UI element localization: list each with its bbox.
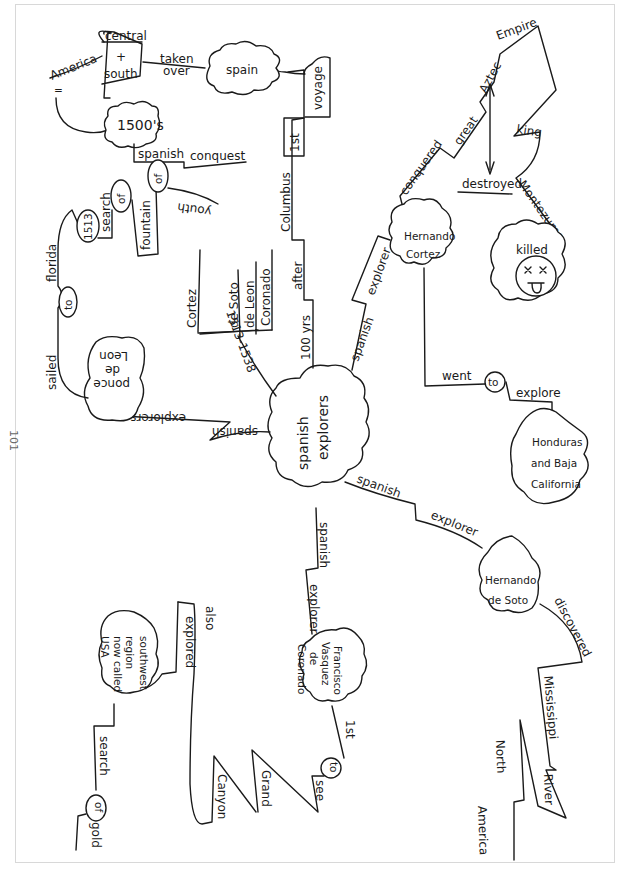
label-explore: explore [516,386,561,400]
label-cortez: Cortez [185,289,199,328]
branch-coronado: spanish explorer Francisco Vasquez de Co… [76,508,367,850]
label-spanish-5: spanish [317,522,331,568]
node-region-line2: region [124,636,136,669]
label-north-america: America [475,806,491,856]
node-ponce-line2: de [105,363,120,377]
label-great: great [451,113,481,147]
node-spain: spain [226,63,258,77]
label-mississippi: Mississippi [541,675,561,740]
label-equals: = [54,84,63,96]
dead-face-icon [516,256,556,296]
node-coronado-line2: Vasquez [320,642,332,686]
node-desoto-line1: Hernando [485,574,536,586]
branch-timeline: 1513-1538 Cortez de Soto de Leon Coronad… [185,250,276,396]
node-region-line4: USA [99,636,111,659]
label-canyon: Canyon [215,774,229,819]
central-node: spanish explorers [268,365,369,486]
node-region-line1: southwest [138,636,150,690]
label-spanish-2: spanish [212,425,258,439]
branch-de-soto: spanish explorer Hernando de Soto discov… [345,472,594,860]
label-of-3: of [93,802,105,812]
label-conquest: conquest [190,149,245,163]
worksheet-page: 101 spanish explorers 100 yrs after Colu… [0,0,625,884]
node-honduras-line2: and Baja [531,457,577,469]
label-explorer-1: explorer [364,246,394,297]
label-spanish-3: spanish [348,315,377,363]
label-columbus: Columbus [279,172,293,232]
node-coronado-line1: Francisco [332,646,344,695]
label-1513: 1513 [82,213,94,240]
label-central: central [105,29,147,43]
label-killed: killed [516,243,548,257]
label-plus: + [116,50,126,64]
label-also: also [203,606,217,630]
label-discovered: discovered [551,595,594,659]
label-to-3: to [328,762,340,773]
label-to-2: to [488,376,499,388]
label-spanish-4: spanish [355,472,403,501]
label-empire: Empire [494,15,539,43]
mind-map: 101 spanish explorers 100 yrs after Colu… [0,0,625,884]
label-explorer-3: explorer [307,584,321,634]
label-explored: explored [183,616,197,668]
branch-cortez: spanish explorer Hernando Cortez conquer… [348,15,589,503]
label-destroyed: destroyed [462,177,522,191]
label-de-leon: de Leon [243,280,257,328]
label-100-yrs: 100 yrs [299,315,313,360]
label-search-2: search [97,736,111,776]
label-of-2: of [152,174,164,184]
label-florida: florida [45,244,59,282]
label-sailed: sailed [45,355,59,390]
node-ponce-line1: ponce [93,377,130,391]
label-to-1: to [62,299,74,310]
label-king: king [516,122,543,139]
node-cortez-line1: Hernando [404,230,455,242]
label-spanish-1: spanish [138,147,184,161]
label-de-soto: de Soto [227,282,241,328]
node-1500s: 1500's [117,117,164,133]
label-grand: Grand [259,770,273,807]
label-explorer-2: explorer [429,508,480,540]
label-america: America [48,51,99,83]
node-ponce-line3: Leon [99,349,128,363]
label-river: River [541,774,556,806]
node-coronado-line4: Coronado [296,644,308,694]
label-youth: youth [176,200,212,219]
label-1st: 1st [288,133,302,152]
label-voyage: voyage [311,66,325,110]
node-honduras-line3: California [531,478,581,490]
label-see: see [313,780,327,801]
label-fountain: fountain [139,200,153,250]
node-cortez-line2: Cortez [406,248,441,260]
label-south: south [104,67,138,81]
label-north: North [493,740,508,774]
label-of-1: of [115,194,127,204]
label-explorers: explorers [130,411,186,425]
node-region-line3: now called [112,636,124,692]
label-after: after [291,262,305,290]
node-coronado-line3: de [308,652,320,665]
label-1st-2: 1st [343,720,357,739]
label-conquered: conquered [397,137,445,197]
label-went: went [442,369,472,383]
label-over: over [163,64,190,78]
central-label-line1: spanish [295,416,311,470]
label-gold: gold [89,822,103,848]
label-coronado: Coronado [259,268,273,326]
central-label-line2: explorers [315,395,331,460]
node-honduras-line1: Honduras [532,436,583,448]
node-desoto-line2: de Soto [488,594,528,606]
page-number: 101 [7,430,20,451]
